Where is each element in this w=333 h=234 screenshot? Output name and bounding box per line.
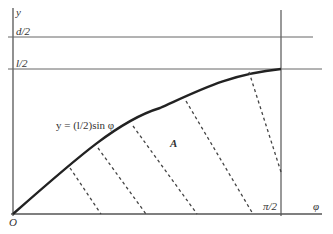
y-axis-label: y [16,7,21,18]
curve-equation-label: y = (l/2)sin φ [56,120,114,131]
hatch-line [98,148,146,214]
d-half-label: d/2 [16,26,30,37]
hatch-line [70,168,101,214]
buffon-needle-diagram: y d/2 l/2 y = (l/2)sin φ A O π/2 φ [0,0,333,234]
x-axis-label: φ [313,201,319,212]
hatch-line [186,101,253,214]
area-label: A [170,138,177,149]
l-half-label: l/2 [16,58,28,69]
hatch-line [133,126,197,214]
sine-curve [13,69,281,214]
hatch-line [249,72,281,172]
diagram-canvas [0,0,333,234]
pi-half-label: π/2 [263,201,277,212]
origin-label: O [9,217,17,228]
